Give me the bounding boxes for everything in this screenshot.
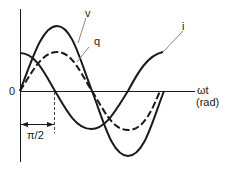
arrowhead-right-icon (47, 122, 54, 127)
phase-shift-label: π/2 (27, 129, 44, 141)
leader-i (163, 31, 183, 52)
leader-v (78, 18, 86, 43)
arrowhead-left-icon (21, 122, 28, 127)
origin-label: 0 (9, 85, 15, 97)
x-axis-label-omega-t: ωt (197, 84, 209, 96)
label-i: i (182, 20, 184, 32)
capacitor-waveform-diagram: v q i 0 ωt (rad) π/2 (0, 0, 226, 171)
label-v: v (85, 7, 91, 19)
label-q: q (94, 35, 100, 47)
x-axis-label-unit: (rad) (196, 96, 219, 108)
